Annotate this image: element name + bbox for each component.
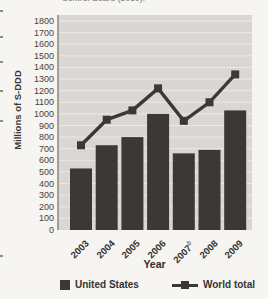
plot-area bbox=[57, 15, 252, 230]
line-marker-icon bbox=[172, 284, 198, 287]
page-edge-mark bbox=[0, 36, 3, 38]
y-tick-1000: 1000 bbox=[20, 109, 54, 119]
figure-caption-clipped: Control Board (2010). bbox=[62, 0, 145, 3]
bar-2006 bbox=[147, 114, 169, 230]
legend-label-united-states: United States bbox=[75, 279, 139, 290]
legend-label-world-total: World total bbox=[203, 279, 255, 290]
bar-2005 bbox=[121, 137, 143, 230]
y-tick-600: 600 bbox=[20, 155, 54, 165]
y-tick-1600: 1600 bbox=[20, 39, 54, 49]
y-tick-0: 0 bbox=[20, 225, 54, 235]
line-marker-2005 bbox=[128, 106, 136, 114]
legend-item-world-total: World total bbox=[172, 278, 268, 292]
y-tick-1500: 1500 bbox=[20, 51, 54, 61]
bar-2003 bbox=[70, 168, 92, 230]
page-edge-mark bbox=[0, 10, 3, 12]
bar-2004 bbox=[96, 145, 118, 230]
line-marker-2008 bbox=[206, 98, 214, 106]
y-tick-700: 700 bbox=[20, 144, 54, 154]
legend-item-united-states: United States bbox=[60, 278, 160, 292]
bar-2009 bbox=[224, 110, 246, 230]
legend: United States World total bbox=[0, 278, 268, 292]
page-edge-mark bbox=[0, 120, 3, 122]
line-marker-2004 bbox=[103, 116, 111, 124]
x-axis-title: Year bbox=[57, 258, 252, 270]
y-tick-400: 400 bbox=[20, 179, 54, 189]
line-marker-2003 bbox=[77, 141, 85, 149]
page-edge-mark bbox=[0, 255, 3, 257]
y-tick-900: 900 bbox=[20, 121, 54, 131]
bar-2008 bbox=[199, 150, 221, 230]
line-marker-2006 bbox=[154, 84, 162, 92]
page-edge-mark bbox=[0, 90, 3, 92]
chart-figure: Control Board (2010). Millions of S-DDD … bbox=[0, 0, 268, 299]
y-tick-1200: 1200 bbox=[20, 86, 54, 96]
y-tick-200: 200 bbox=[20, 202, 54, 212]
y-tick-500: 500 bbox=[20, 167, 54, 177]
y-tick-800: 800 bbox=[20, 132, 54, 142]
bar-swatch-icon bbox=[60, 280, 70, 290]
line-square-marker-icon bbox=[181, 281, 189, 289]
y-tick-1300: 1300 bbox=[20, 74, 54, 84]
y-tick-1100: 1100 bbox=[20, 97, 54, 107]
y-tick-300: 300 bbox=[20, 190, 54, 200]
y-tick-1800: 1800 bbox=[20, 16, 54, 26]
line-marker-2009 bbox=[231, 70, 239, 78]
y-tick-100: 100 bbox=[20, 213, 54, 223]
page-edge-mark bbox=[0, 61, 3, 63]
bar-2007 bbox=[173, 153, 195, 230]
y-tick-1700: 1700 bbox=[20, 28, 54, 38]
line-marker-2007 bbox=[180, 117, 188, 125]
y-tick-1400: 1400 bbox=[20, 62, 54, 72]
